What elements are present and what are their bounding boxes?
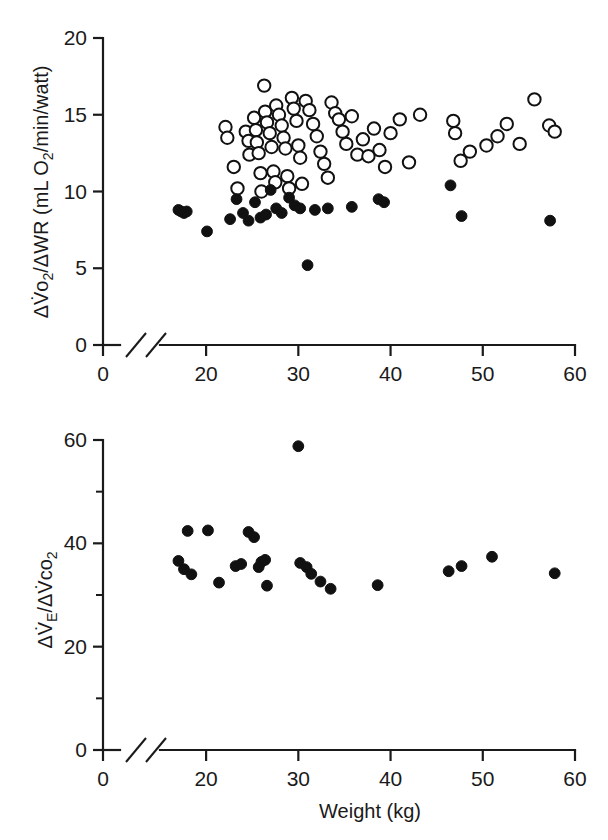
top-x-ticks xyxy=(103,345,575,356)
data-point xyxy=(292,139,304,151)
data-point xyxy=(491,130,503,142)
y-tick-label: 0 xyxy=(75,333,87,356)
data-point xyxy=(447,115,459,127)
top-data-points-open xyxy=(219,79,561,197)
y-tick-label: 5 xyxy=(75,256,87,279)
x-tick-label: 0 xyxy=(97,767,109,790)
data-point xyxy=(250,124,262,136)
data-point xyxy=(549,125,561,137)
data-point xyxy=(252,147,264,159)
x-tick-label: 30 xyxy=(287,362,310,385)
top-scatter-plot: ΔV̇o2/ΔWR (mL O2/min/watt) 05101520 xyxy=(0,0,608,420)
data-point xyxy=(261,209,272,220)
data-point xyxy=(501,118,513,130)
x-tick-label: 0 xyxy=(97,362,109,385)
data-point xyxy=(306,568,317,579)
top-y-ticks xyxy=(93,38,103,345)
data-point xyxy=(302,260,313,271)
data-point xyxy=(311,130,323,142)
data-point xyxy=(265,141,277,153)
data-point xyxy=(464,145,476,157)
data-point xyxy=(373,144,385,156)
data-point xyxy=(276,119,288,131)
data-point xyxy=(414,109,426,121)
data-point xyxy=(315,576,326,587)
data-point xyxy=(288,102,300,114)
data-point xyxy=(545,215,556,226)
top-y-tick-labels: 05101520 xyxy=(64,26,87,356)
data-point xyxy=(307,118,319,130)
data-point xyxy=(346,110,358,122)
data-point xyxy=(379,161,391,173)
figure-root: ΔV̇o2/ΔWR (mL O2/min/watt) 05101520 xyxy=(0,0,608,840)
x-tick-label: 20 xyxy=(194,767,217,790)
data-point xyxy=(384,127,396,139)
data-point xyxy=(322,171,334,183)
data-point xyxy=(290,115,302,127)
data-point xyxy=(368,122,380,134)
data-point xyxy=(228,161,240,173)
data-point xyxy=(318,158,330,170)
data-point xyxy=(221,132,233,144)
data-point xyxy=(333,113,345,125)
data-point xyxy=(357,133,369,145)
data-point xyxy=(314,145,326,157)
data-point xyxy=(202,226,213,237)
data-point xyxy=(296,178,308,190)
data-point xyxy=(549,568,560,579)
svg-text:ΔV̇o2/ΔWR (mL O2/min/watt): ΔV̇o2/ΔWR (mL O2/min/watt) xyxy=(30,66,56,319)
data-point xyxy=(528,93,540,105)
data-point xyxy=(181,206,192,217)
y-tick-label: 15 xyxy=(64,103,87,126)
data-point xyxy=(294,152,306,164)
data-point xyxy=(449,127,461,139)
data-point xyxy=(254,167,266,179)
x-tick-label: 50 xyxy=(471,767,494,790)
data-point xyxy=(346,201,357,212)
y-tick-label: 10 xyxy=(64,180,87,203)
data-point xyxy=(336,125,348,137)
data-point xyxy=(303,104,315,116)
data-point xyxy=(249,532,260,543)
x-tick-label: 20 xyxy=(194,362,217,385)
x-tick-label: 30 xyxy=(287,767,310,790)
data-point xyxy=(456,211,467,222)
data-point xyxy=(340,138,352,150)
panel-bottom: ΔV̇E/ΔV̇co2 0204060 02030405060 Weight ( xyxy=(0,420,608,840)
top-y-axis-label: ΔV̇o2/ΔWR (mL O2/min/watt) xyxy=(30,66,56,319)
bottom-x-ticks xyxy=(103,750,575,761)
y-tick-label: 20 xyxy=(64,635,87,658)
data-point xyxy=(480,139,492,151)
data-point xyxy=(403,156,415,168)
data-point xyxy=(236,559,247,570)
data-point xyxy=(456,561,467,572)
data-point xyxy=(262,580,273,591)
data-point xyxy=(182,526,193,537)
data-point xyxy=(379,197,390,208)
data-point xyxy=(243,215,254,226)
data-point xyxy=(293,441,304,452)
data-point xyxy=(295,203,306,214)
data-point xyxy=(325,583,336,594)
y-tick-label: 40 xyxy=(64,531,87,554)
bottom-x-tick-labels: 02030405060 xyxy=(97,767,587,790)
y-tick-label: 60 xyxy=(64,428,87,451)
panel-top: ΔV̇o2/ΔWR (mL O2/min/watt) 05101520 xyxy=(0,0,608,420)
data-point xyxy=(258,79,270,91)
y-tick-label: 20 xyxy=(64,26,87,49)
top-data-points-filled xyxy=(173,180,555,271)
data-point xyxy=(231,194,242,205)
data-point xyxy=(279,142,291,154)
x-axis-label: Weight (kg) xyxy=(319,800,421,822)
data-point xyxy=(322,203,333,214)
data-point xyxy=(445,180,456,191)
data-point xyxy=(443,566,454,577)
bottom-data-points-filled xyxy=(173,441,560,594)
data-point xyxy=(310,205,321,216)
x-tick-label: 40 xyxy=(379,767,402,790)
data-point xyxy=(265,185,276,196)
bottom-y-tick-labels: 0204060 xyxy=(64,428,87,761)
data-point xyxy=(186,569,197,580)
x-tick-label: 40 xyxy=(379,362,402,385)
data-point xyxy=(264,127,276,139)
